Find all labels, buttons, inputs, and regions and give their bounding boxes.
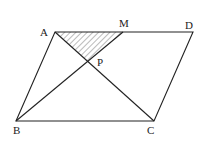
label-d: D bbox=[185, 19, 193, 31]
label-a: A bbox=[40, 26, 48, 38]
label-c: C bbox=[147, 124, 154, 136]
shaded-triangle-amp bbox=[55, 32, 123, 61]
label-b: B bbox=[13, 124, 20, 136]
label-p: P bbox=[97, 56, 103, 68]
label-m: M bbox=[119, 17, 129, 29]
geometry-diagram: A M D P B C bbox=[0, 0, 205, 147]
